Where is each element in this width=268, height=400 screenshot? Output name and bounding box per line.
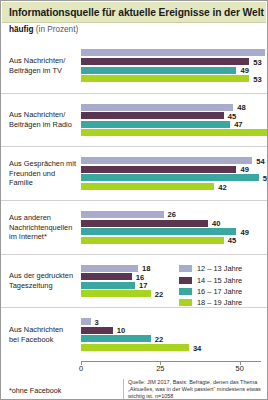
bar-group-label-line: Tageszeitung xyxy=(9,281,78,291)
bar xyxy=(81,174,259,181)
bar-group: Aus anderenNachrichtenquellenim Internet… xyxy=(1,200,267,254)
legend-swatch xyxy=(179,277,192,284)
bar xyxy=(81,121,230,128)
bar-row: 47 xyxy=(81,121,267,128)
bar-value-label: 22 xyxy=(155,334,163,343)
bar-value-label: 53 xyxy=(253,74,261,83)
bar-row: 53 xyxy=(81,75,267,82)
chart-plot-area: Aus Nachrichten/Beiträgen im TV58534953A… xyxy=(1,39,267,361)
bar-group-label-line: bei Facebook xyxy=(9,335,78,345)
bar-group-label-line: Aus Gesprächen mit xyxy=(9,159,78,169)
bar xyxy=(81,318,91,325)
bar xyxy=(81,220,208,227)
legend-label: 16 – 17 Jahre xyxy=(197,287,242,296)
bar-row: 58 xyxy=(81,49,267,56)
bar-group-label-line: im Internet* xyxy=(9,232,78,242)
bar xyxy=(81,282,135,289)
legend-item[interactable]: 18 – 19 Jahre xyxy=(179,297,263,308)
legend-label: 12 – 13 Jahre xyxy=(197,264,242,273)
axis-tick-label: 50 xyxy=(236,364,244,373)
axis-tick-label: 25 xyxy=(156,364,164,373)
bar-group-label: Aus der gedrucktenTageszeitung xyxy=(1,271,81,290)
bar xyxy=(81,183,214,190)
bar-group-label: Aus Nachrichtenbei Facebook xyxy=(1,325,81,344)
bar-value-label: 54 xyxy=(256,156,264,165)
bar-row: 49 xyxy=(81,228,267,235)
legend-item[interactable]: 14 – 15 Jahre xyxy=(179,274,263,285)
bar-row: 22 xyxy=(81,335,267,342)
bar-row: 45 xyxy=(81,237,267,244)
bar-row: 49 xyxy=(81,166,267,173)
bar-row: 10 xyxy=(81,327,267,334)
bar-group-bars: 3102234 xyxy=(81,308,267,361)
chart-figure: Informationsquelle für aktuelle Ereignis… xyxy=(0,0,268,400)
bar-group-bars: 26404945 xyxy=(81,201,267,254)
bar-group-label-line: Aus Nachrichten/ xyxy=(9,56,78,66)
bar xyxy=(81,327,113,334)
bar-row: 34 xyxy=(81,344,267,351)
bar-group-label-line: Beiträgen im Radio xyxy=(9,120,78,130)
legend-swatch xyxy=(179,265,192,272)
axis-line xyxy=(81,361,261,362)
bar-group: Aus Gesprächen mitFreunden und Familie54… xyxy=(1,146,267,200)
bar-value-label: 3 xyxy=(95,317,99,326)
legend-item[interactable]: 16 – 17 Jahre xyxy=(179,286,263,297)
bar-value-label: 10 xyxy=(117,326,125,335)
bar-value-label: 45 xyxy=(228,236,236,245)
bar-group-label: Aus Gesprächen mitFreunden und Familie xyxy=(1,159,81,188)
bar-value-label: 34 xyxy=(193,343,201,352)
bar xyxy=(81,335,151,342)
bar-row: 56 xyxy=(81,174,267,181)
chart-title-band: Informationsquelle für aktuelle Ereignis… xyxy=(2,2,266,23)
legend-swatch xyxy=(179,299,192,306)
bar-row: 48 xyxy=(81,104,267,111)
bar xyxy=(81,112,224,119)
chart-subtitle: häufig (in Prozent) xyxy=(9,25,78,34)
bar-group-label-line: Beiträgen im TV xyxy=(9,66,78,76)
bar-value-label: 56 xyxy=(263,173,268,182)
bar-group-label: Aus Nachrichten/Beiträgen im Radio xyxy=(1,110,81,129)
bar-value-label: 17 xyxy=(139,281,147,290)
bar-value-label: 40 xyxy=(212,219,220,228)
bar-group: Aus Nachrichten/Beiträgen im TV58534953 xyxy=(1,39,267,93)
bar-row: 54 xyxy=(81,157,267,164)
subtitle-emphasis: häufig xyxy=(9,25,34,34)
bar-row: 3 xyxy=(81,318,267,325)
bar-group-bars: 48454760 xyxy=(81,94,267,147)
bar-group-label-line: Aus anderen xyxy=(9,213,78,223)
bar xyxy=(81,211,164,218)
legend-item[interactable]: 12 – 13 Jahre xyxy=(179,263,263,274)
bar-row: 60 xyxy=(81,129,267,136)
bar-group-label-line: Aus Nachrichten xyxy=(9,325,78,335)
bar xyxy=(81,58,249,65)
bar xyxy=(81,49,265,56)
bar xyxy=(81,273,132,280)
bar-value-label: 48 xyxy=(237,103,245,112)
bar-group-label-line: Freunden und Familie xyxy=(9,169,78,188)
bar xyxy=(81,157,252,164)
bar xyxy=(81,104,233,111)
legend-label: 18 – 19 Jahre xyxy=(197,298,242,307)
bar-value-label: 49 xyxy=(240,165,248,174)
legend-label: 14 – 15 Jahre xyxy=(197,276,242,285)
bar xyxy=(81,344,189,351)
chart-footnote: *ohne Facebook xyxy=(9,386,61,395)
bar-value-label: 47 xyxy=(234,120,242,129)
bar xyxy=(81,265,138,272)
bar-group-bars: 58534953 xyxy=(81,39,267,93)
bar-group-label-line: Nachrichtenquellen xyxy=(9,223,78,233)
bar xyxy=(81,228,236,235)
bar-row: 49 xyxy=(81,67,267,74)
bar-value-label: 49 xyxy=(240,227,248,236)
bar xyxy=(81,290,151,297)
bar-value-label: 26 xyxy=(168,210,176,219)
subtitle-unit: (in Prozent) xyxy=(36,25,78,34)
bar-group: Aus Nachrichten/Beiträgen im Radio484547… xyxy=(1,93,267,147)
bar xyxy=(81,166,236,173)
bar xyxy=(81,67,236,74)
chart-legend: 12 – 13 Jahre14 – 15 Jahre16 – 17 Jahre1… xyxy=(179,263,263,309)
bar-value-label: 42 xyxy=(218,182,226,191)
bar-group-label: Aus Nachrichten/Beiträgen im TV xyxy=(1,56,81,75)
bar xyxy=(81,75,249,82)
legend-swatch xyxy=(179,288,192,295)
